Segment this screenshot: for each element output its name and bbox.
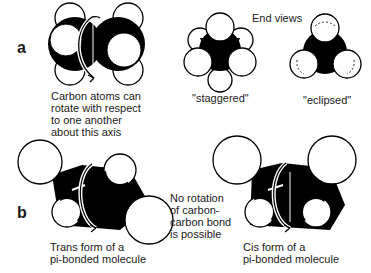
caption-line: carbon bond [170, 216, 231, 228]
caption-line: about this axis [51, 126, 121, 138]
caption-line: Cis form of a [243, 241, 305, 253]
staggered-end-view [184, 13, 256, 92]
caption-line: is possible [170, 228, 221, 240]
panel-a-label: a [17, 40, 26, 56]
end-views-title: End views [252, 12, 302, 24]
caption-line: to one another [51, 114, 122, 126]
side-view-molecule [48, 3, 145, 85]
caption-line: Trans form of a [50, 241, 124, 253]
eclipsed-label: "eclipsed" [303, 94, 351, 106]
staggered-label: "staggered" [192, 92, 249, 104]
caption-line: rotate with respect [51, 102, 141, 114]
panel-b-label: b [17, 205, 27, 221]
caption-line: pi-bonded molecule [50, 253, 146, 265]
caption-line: No rotation [170, 192, 224, 204]
caption-line: of carbon- [170, 204, 220, 216]
cis-molecule [213, 136, 356, 232]
caption-line: pi-bonded molecule [243, 253, 339, 265]
caption-line: Carbon atoms can [51, 90, 141, 102]
trans-molecule [18, 140, 173, 244]
